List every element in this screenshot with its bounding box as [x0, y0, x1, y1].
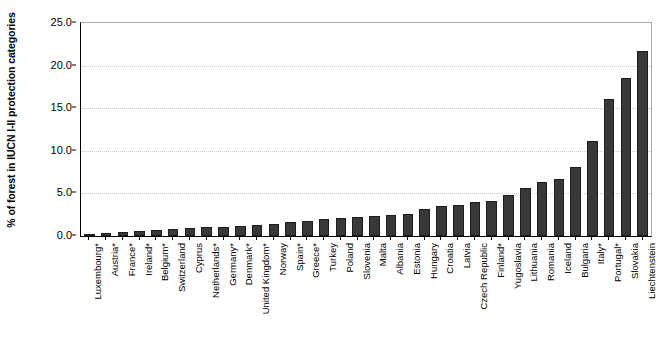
x-axis-tick-slot: [466, 236, 483, 242]
x-axis-label-slot: Greece*: [298, 243, 315, 343]
bar-slot: [282, 23, 299, 236]
x-axis-tick-slot: [617, 236, 634, 242]
bar-slot: [534, 23, 551, 236]
bar-slot: [601, 23, 618, 236]
bar-slot: [584, 23, 601, 236]
x-axis-label-slot: Lithuania: [516, 243, 533, 343]
x-axis-label-slot: France*: [114, 243, 131, 343]
x-axis-tick-mark: [122, 236, 123, 240]
x-axis-tick-slot: [80, 236, 97, 242]
x-axis-label-slot: Czech Republic: [466, 243, 483, 343]
y-axis-title: % of forest in IUCN I-II protection cate…: [0, 0, 22, 240]
y-axis-tick-mark: [72, 22, 76, 23]
x-axis-tick-marks: [80, 236, 650, 242]
bar: [302, 221, 313, 236]
x-axis-tick-slot: [281, 236, 298, 242]
x-axis-tick-mark: [256, 236, 257, 240]
x-axis-tick-mark: [373, 236, 374, 240]
x-axis-tick-mark: [390, 236, 391, 240]
x-axis-label-slot: Cyprus: [181, 243, 198, 343]
bar: [503, 195, 514, 236]
bar-slot: [416, 23, 433, 236]
x-axis-tick-mark: [508, 236, 509, 240]
bar-slot: [148, 23, 165, 236]
x-axis-tick-slot: [298, 236, 315, 242]
bar: [587, 141, 598, 236]
bar-slot: [299, 23, 316, 236]
y-axis-tick-mark: [72, 235, 76, 236]
x-axis-tick-slot: [365, 236, 382, 242]
x-axis-tick-mark: [273, 236, 274, 240]
bar: [520, 188, 531, 236]
x-axis-tick-mark: [172, 236, 173, 240]
x-axis-tick-slot: [583, 236, 600, 242]
bar-slot: [249, 23, 266, 236]
bar: [269, 224, 280, 236]
bar-slot: [182, 23, 199, 236]
x-axis-label-slot: Latvia: [449, 243, 466, 343]
bar-slot: [215, 23, 232, 236]
bar: [486, 201, 497, 236]
x-axis-tick-slot: [248, 236, 265, 242]
y-axis-tick-label: 15.0: [51, 101, 72, 113]
x-axis-tick-mark: [558, 236, 559, 240]
bar: [637, 51, 648, 236]
y-axis-title-text: % of forest in IUCN I-II protection cate…: [5, 12, 17, 227]
x-axis-tick-mark: [105, 236, 106, 240]
bar: [554, 179, 565, 236]
bar: [419, 209, 430, 236]
bar-slot: [366, 23, 383, 236]
y-axis-tick-label: 20.0: [51, 59, 72, 71]
x-axis-label-slot: Iceland: [549, 243, 566, 343]
bar-slot: [81, 23, 98, 236]
x-axis-label-slot: Germany*: [214, 243, 231, 343]
bar-slot: [115, 23, 132, 236]
x-axis-tick-mark: [457, 236, 458, 240]
bar: [285, 222, 296, 236]
x-axis-label-slot: Switzerland: [164, 243, 181, 343]
x-axis-tick-mark: [340, 236, 341, 240]
bar-slot: [500, 23, 517, 236]
bar: [252, 225, 263, 236]
y-axis-tick-label: 10.0: [51, 144, 72, 156]
x-axis-tick-slot: [315, 236, 332, 242]
bar-slot: [467, 23, 484, 236]
bar-slot: [400, 23, 417, 236]
x-axis-tick-mark: [223, 236, 224, 240]
x-axis-tick-slot: [600, 236, 617, 242]
x-axis-tick-mark: [139, 236, 140, 240]
bar-slot: [265, 23, 282, 236]
bar-slot: [349, 23, 366, 236]
bar-series: [81, 23, 651, 236]
x-axis-tick-mark: [642, 236, 643, 240]
x-axis-label-slot: Estonia: [399, 243, 416, 343]
x-axis-tick-labels: Luxembourg*Austria*France*Ireland*Belgiu…: [80, 243, 650, 343]
x-axis-tick-slot: [499, 236, 516, 242]
bar: [436, 206, 447, 236]
x-axis-tick-slot: [264, 236, 281, 242]
x-axis-tick-slot: [382, 236, 399, 242]
bar: [218, 227, 229, 236]
bar-chart-figure: % of forest in IUCN I-II protection cate…: [0, 0, 671, 343]
bar: [319, 219, 330, 236]
x-axis-label-slot: Norway: [264, 243, 281, 343]
bar-slot: [618, 23, 635, 236]
x-axis-tick-slot: [482, 236, 499, 242]
bar-slot: [332, 23, 349, 236]
bar-slot: [131, 23, 148, 236]
bar: [386, 215, 397, 236]
bar: [537, 182, 548, 236]
y-axis-tick-label: 25.0: [51, 16, 72, 28]
y-axis-tick-mark: [72, 192, 76, 193]
x-axis-label-slot: Malta: [365, 243, 382, 343]
bar-slot: [98, 23, 115, 236]
x-axis-tick-slot: [348, 236, 365, 242]
x-axis-tick-slot: [633, 236, 650, 242]
x-axis-tick-slot: [231, 236, 248, 242]
bar: [570, 167, 581, 236]
x-axis-tick-mark: [440, 236, 441, 240]
x-axis-label-slot: Netherlands*: [197, 243, 214, 343]
y-axis-tick-mark: [72, 107, 76, 108]
y-axis-tick-mark: [72, 149, 76, 150]
bar-slot: [517, 23, 534, 236]
